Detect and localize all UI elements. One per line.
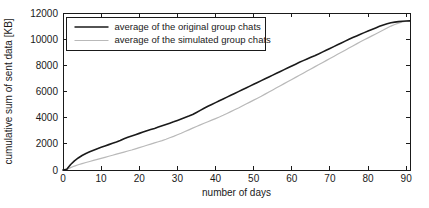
x-tick-label: 90 (401, 173, 413, 184)
x-tick-label: 40 (210, 173, 222, 184)
x-tick-label: 20 (134, 173, 146, 184)
chart-legend: average of the original group chatsavera… (67, 18, 272, 51)
y-tick-label: 2000 (36, 138, 59, 149)
legend-label: average of the original group chats (115, 21, 262, 32)
x-tick-label: 60 (286, 173, 298, 184)
legend-label: average of the simulated group chats (115, 34, 272, 45)
y-tick-label: 4000 (36, 112, 59, 123)
x-tick-label: 70 (324, 173, 336, 184)
x-tick-label: 10 (96, 173, 108, 184)
y-tick-label: 10000 (30, 34, 58, 45)
x-axis-title: number of days (202, 187, 271, 198)
y-tick-label: 12000 (30, 8, 58, 19)
x-tick-label: 30 (172, 173, 184, 184)
y-tick-label: 6000 (36, 86, 59, 97)
y-tick-label: 8000 (36, 60, 59, 71)
x-tick-label: 0 (60, 173, 66, 184)
line-chart-canvas: 0200040006000800010000120000102030405060… (0, 0, 429, 208)
y-axis-title: cumulative sum of sent data [KB] (3, 18, 14, 164)
x-tick-label: 50 (248, 173, 260, 184)
y-tick-label: 0 (52, 165, 58, 176)
chart-figure: 0200040006000800010000120000102030405060… (0, 0, 429, 208)
x-tick-label: 80 (362, 173, 374, 184)
